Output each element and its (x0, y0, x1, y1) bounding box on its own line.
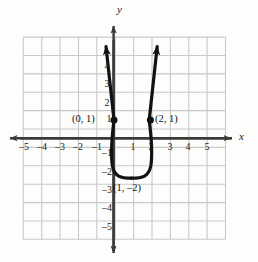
x-tick-2: 2 (144, 141, 158, 152)
point-marker-2-1 (147, 117, 154, 124)
point-label-1--2: (1, –2) (113, 182, 141, 193)
x-tick-1: 1 (126, 141, 140, 152)
y-tick--1: –1 (99, 147, 115, 158)
x-tick--3: –3 (53, 141, 67, 152)
y-tick-2: 2 (101, 97, 113, 108)
x-tick-3: 3 (163, 141, 177, 152)
x-tick--5: –5 (17, 141, 31, 152)
x-tick-5: 5 (200, 141, 214, 152)
y-tick-3: 3 (101, 78, 113, 89)
point-label-2-1: (2, 1) (155, 113, 178, 124)
x-tick-4: 4 (181, 141, 195, 152)
x-tick--2: –2 (71, 141, 85, 152)
y-tick--4: –4 (99, 202, 115, 213)
parabola-right-upper (149, 47, 157, 121)
y-tick--2: –2 (99, 166, 115, 177)
point-label-0-1: (0, 1) (72, 113, 95, 124)
coordinate-plane-svg (0, 0, 258, 262)
x-axis-label: x (239, 130, 244, 142)
x-tick--4: –4 (35, 141, 49, 152)
y-tick-4: 4 (101, 60, 113, 71)
y-tick--5: –5 (99, 221, 115, 232)
y-axis-label: y (117, 3, 122, 15)
graph-figure: y x –5 –4 –3 –2 –1 1 2 3 4 5 4 3 2 1 –1 … (0, 0, 258, 262)
y-tick-1: 1 (103, 113, 115, 124)
